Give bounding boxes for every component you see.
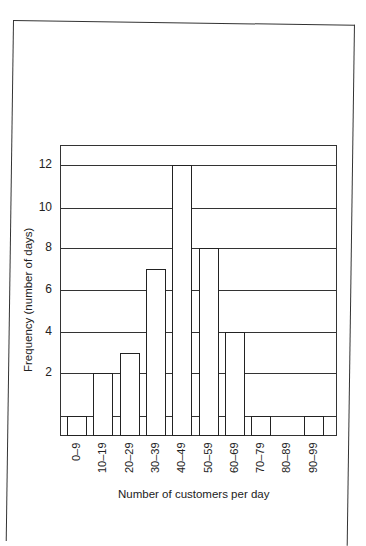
x-tick-label: 50–59	[202, 442, 214, 473]
bar	[146, 269, 166, 436]
x-tick-label: 20–29	[123, 442, 135, 473]
x-tick-label: 0–9	[70, 442, 82, 460]
x-tick-label: 70–79	[254, 442, 266, 473]
x-tick-label: 90–99	[307, 442, 319, 473]
gridline	[60, 165, 337, 166]
bar	[172, 165, 192, 436]
x-tick-label: 10–19	[96, 442, 108, 473]
x-tick-label: 80–89	[280, 442, 292, 473]
x-tick-label: 30–39	[149, 442, 161, 473]
bar	[251, 416, 271, 436]
gridline	[60, 208, 337, 209]
y-tick-label: 10	[22, 200, 52, 214]
y-axis-label: Frequency (number of days)	[22, 228, 34, 372]
y-tick-label: 12	[22, 157, 52, 171]
bar	[93, 373, 113, 436]
x-tick-label: 60–69	[228, 442, 240, 473]
x-axis-label: Number of customers per day	[118, 488, 269, 500]
bar	[67, 416, 87, 436]
x-tick-label: 40–49	[175, 442, 187, 473]
bar	[120, 353, 140, 437]
bar	[225, 332, 245, 436]
bar	[304, 416, 324, 436]
bar	[199, 248, 219, 436]
